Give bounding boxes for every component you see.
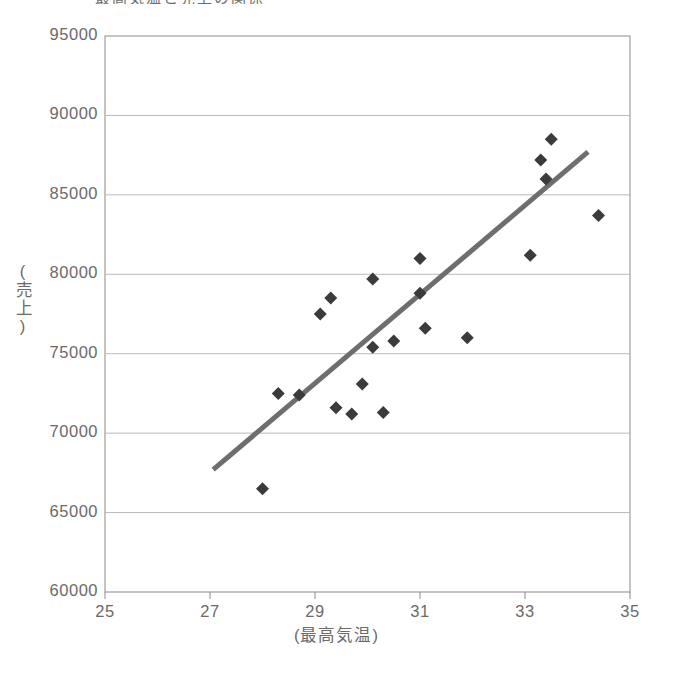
x-tick-label: 31 xyxy=(400,602,440,621)
plot-area xyxy=(0,0,673,675)
x-tick-label: 35 xyxy=(610,602,650,621)
x-axis-title: (最高気温) xyxy=(0,622,673,646)
y-tick-label: 95000 xyxy=(24,25,98,44)
y-axis-title: (売上) xyxy=(14,262,31,336)
y-tick-label: 80000 xyxy=(24,263,98,282)
y-tick-label: 65000 xyxy=(24,502,98,521)
x-tick-label: 25 xyxy=(85,602,125,621)
x-tick-marks xyxy=(105,592,630,599)
plot-frame xyxy=(105,36,630,592)
y-tick-label: 60000 xyxy=(24,581,98,600)
y-tick-label: 75000 xyxy=(24,343,98,362)
y-tick-label: 70000 xyxy=(24,422,98,441)
x-tick-label: 29 xyxy=(295,602,335,621)
x-tick-label: 27 xyxy=(190,602,230,621)
scatter-chart: 最高気温と売上の関係 95000900008500080000750007000… xyxy=(0,0,673,675)
y-tick-label: 85000 xyxy=(24,184,98,203)
x-tick-label: 33 xyxy=(505,602,545,621)
y-tick-label: 90000 xyxy=(24,104,98,123)
